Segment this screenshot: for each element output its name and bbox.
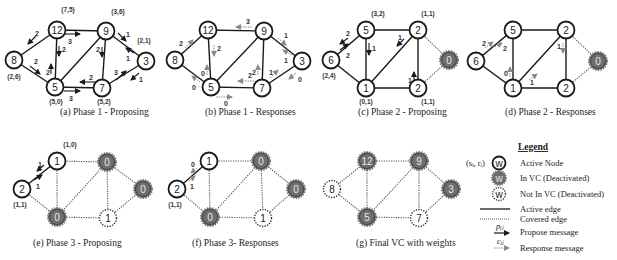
panel-caption: (a) Phase 1 - Proposing bbox=[60, 107, 149, 118]
legend-response-symbol: cᵢⱼ bbox=[497, 236, 504, 246]
message-value: 0 bbox=[201, 70, 205, 77]
node-weight: 5 bbox=[364, 212, 370, 223]
legend-propose-symbol: pᵢⱼ bbox=[495, 221, 504, 231]
message-value: 1 bbox=[269, 69, 273, 76]
graph-node-active: 6(2,4) bbox=[322, 52, 339, 81]
legend-not-in-vc-icon: w bbox=[493, 188, 506, 201]
propose-message-arrow-icon bbox=[30, 66, 40, 74]
message-value: 1 bbox=[530, 79, 534, 86]
legend-covered-edge-label: Covered edge bbox=[520, 214, 567, 224]
node-weight: 5 bbox=[52, 82, 58, 93]
node-weight: 1 bbox=[510, 83, 516, 94]
message-value: 1 bbox=[139, 76, 143, 83]
message-value: 2 bbox=[252, 69, 256, 76]
covered-edge bbox=[367, 161, 419, 217]
node-weight: 1 bbox=[363, 83, 369, 94]
node-weight: 3 bbox=[299, 56, 305, 67]
node-pair-label: (1,1) bbox=[13, 201, 26, 209]
node-pair-label: (1,0) bbox=[63, 141, 76, 149]
node-weight: 8 bbox=[172, 55, 178, 66]
graph-node-active: 1 bbox=[505, 80, 522, 97]
message-value: 3 bbox=[114, 69, 118, 76]
svg-text:w: w bbox=[494, 158, 503, 169]
graph-node-active: 8(2,6) bbox=[6, 52, 23, 82]
message-value: 0 bbox=[224, 100, 228, 107]
node-weight: 6 bbox=[473, 56, 479, 67]
graph-node-not-in-vc: 1 bbox=[100, 210, 117, 227]
panel-caption: (b) Phase 1 - Responses bbox=[205, 107, 296, 118]
graph-node-active: 8 bbox=[167, 52, 184, 69]
graph-node-in-vc: 0 bbox=[440, 51, 458, 69]
node-pair-label: (5,2) bbox=[97, 98, 110, 106]
node-weight: 0 bbox=[446, 55, 452, 66]
response-message-arrow-icon bbox=[278, 38, 286, 45]
node-weight: 0 bbox=[595, 56, 601, 67]
legend: Legend (sᵢ, rᵢ) w Active Node w In VC (D… bbox=[466, 142, 604, 253]
figure-canvas: 23222211233112(7,5)9(3,6)8(2,6)5(5,0)7(5… bbox=[0, 0, 617, 260]
graph-node-active: 9(3,6) bbox=[98, 8, 125, 40]
node-weight: 1 bbox=[206, 156, 212, 167]
node-weight: 5 bbox=[510, 25, 516, 36]
node-weight: 3 bbox=[448, 184, 454, 195]
message-value: 2 bbox=[346, 52, 350, 59]
graph-node-active: 1(0,1) bbox=[358, 80, 375, 107]
message-value: 2 bbox=[62, 46, 66, 53]
graph-node-in-vc: 0 bbox=[589, 52, 607, 70]
message-value: 1 bbox=[398, 34, 402, 41]
node-weight: 1 bbox=[260, 213, 266, 224]
graph-node-in-vc: 5 bbox=[358, 208, 376, 226]
graph-node-active: 3 bbox=[294, 53, 311, 70]
message-value: 2 bbox=[217, 45, 221, 52]
node-pair-label: (1,1) bbox=[168, 201, 181, 209]
graph-node-active: 5(3,2) bbox=[358, 10, 385, 39]
response-message-arrow-icon bbox=[289, 73, 296, 79]
node-pair-label: (1,1) bbox=[421, 98, 434, 106]
graph-node-not-in-vc: 1 bbox=[255, 210, 272, 227]
panel-b: 2320002211101298573(b) Phase 1 - Respons… bbox=[167, 18, 311, 119]
message-value: 2 bbox=[179, 40, 183, 47]
message-value: 2 bbox=[34, 58, 38, 65]
message-value: 1 bbox=[284, 32, 288, 39]
panel-caption: (e) Phase 3 - Proposing bbox=[33, 238, 122, 249]
graph-node-in-vc: 0 bbox=[201, 208, 219, 226]
graph-node-active: 5 bbox=[505, 22, 522, 39]
legend-active-node-icon: w bbox=[493, 157, 506, 170]
svg-text:w: w bbox=[494, 173, 503, 184]
graph-node-active: 2(1,1) bbox=[410, 10, 435, 39]
graph-node-in-vc: 0 bbox=[98, 153, 116, 171]
graph-node-in-vc: 0 bbox=[252, 152, 270, 170]
node-weight: 2 bbox=[415, 25, 421, 36]
node-weight: 0 bbox=[104, 157, 110, 168]
legend-pair-label: (sᵢ, rᵢ) bbox=[466, 158, 485, 168]
message-value: 1 bbox=[190, 183, 194, 190]
node-weight: 0 bbox=[140, 184, 146, 195]
graph-node-in-vc: 12 bbox=[358, 152, 376, 170]
graph-node-active: 5(5,0) bbox=[47, 79, 64, 107]
graph-node-active: 9 bbox=[256, 23, 273, 40]
node-pair-label: (2,1) bbox=[137, 37, 150, 45]
node-weight: 9 bbox=[261, 26, 267, 37]
graph-node-active: 1 bbox=[201, 153, 218, 170]
response-message-arrow-icon bbox=[192, 76, 200, 82]
message-value: 2 bbox=[482, 40, 486, 47]
panel-caption: (g) Final VC with weights bbox=[356, 238, 456, 249]
message-value: 1 bbox=[38, 161, 42, 168]
node-pair-label: (3,2) bbox=[371, 10, 384, 18]
graph-node-active: 7(5,2) bbox=[94, 80, 111, 107]
message-value: 2 bbox=[346, 30, 350, 37]
node-weight: 0 bbox=[258, 156, 264, 167]
graph-node-active: 12 bbox=[200, 22, 217, 39]
graph-node-active: 6 bbox=[468, 53, 485, 70]
graph-node-in-vc: 9 bbox=[410, 152, 428, 170]
graph-node-in-vc: 3 bbox=[442, 180, 460, 198]
node-weight: 7 bbox=[416, 213, 422, 224]
node-weight: 2 bbox=[174, 184, 180, 195]
message-value: 1 bbox=[126, 55, 130, 62]
panels-group: 23222211233112(7,5)9(3,6)8(2,6)5(5,0)7(5… bbox=[6, 6, 608, 249]
node-weight: 2 bbox=[563, 25, 569, 36]
node-pair-label: (0,1) bbox=[359, 98, 372, 106]
graph-node-not-in-vc: 7 bbox=[411, 210, 428, 227]
message-value: 0 bbox=[504, 70, 508, 77]
svg-text:w: w bbox=[494, 189, 503, 200]
propose-message-arrow-icon bbox=[28, 36, 36, 44]
